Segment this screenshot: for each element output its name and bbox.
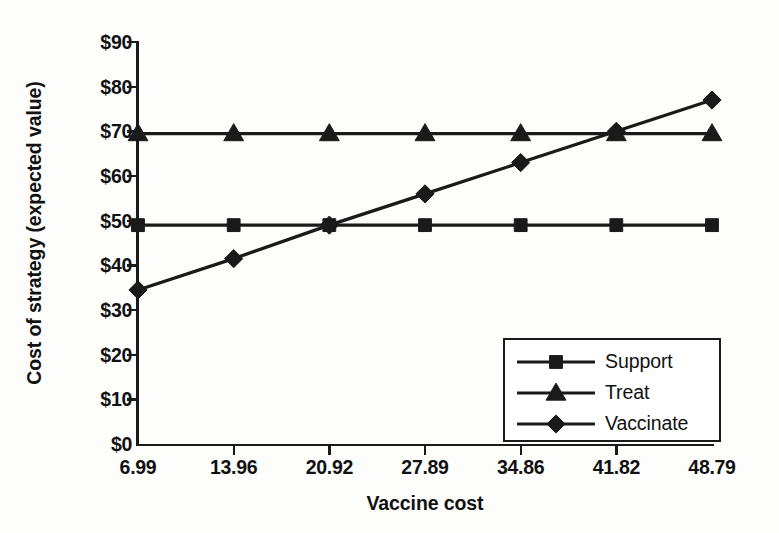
data-point-marker [703,91,721,109]
y-axis-tick-label: $70 [44,120,132,143]
square-marker-icon [515,351,597,373]
y-axis-tick-label: $80 [44,75,132,98]
data-point-marker [514,219,527,232]
x-axis-title: Vaccine cost [138,492,712,515]
y-axis-tick-label: $20 [44,343,132,366]
data-point-marker [129,281,147,299]
legend-item-support[interactable]: Support [505,346,719,377]
legend-item-label: Vaccinate [597,412,688,435]
series-vaccinate [129,91,721,299]
data-point-marker [416,185,434,203]
legend-item-label: Support [597,350,673,373]
x-axis-tick-label: 20.92 [306,456,353,479]
data-point-marker [610,219,623,232]
y-axis-tick-label: $30 [44,299,132,322]
data-point-marker [706,219,719,232]
y-axis-tick-label: $90 [44,31,132,54]
data-point-marker [225,250,243,268]
legend-item-label: Treat [597,381,649,404]
x-axis-tick-label: 27.89 [401,456,448,479]
legend-item-vaccinate[interactable]: Vaccinate [505,408,719,439]
y-axis-tick-labels: $0$10$20$30$40$50$60$70$80$90 [42,0,132,533]
diamond-marker-icon [515,413,597,435]
series-support [132,219,719,232]
chart-legend: Support Treat Vaccinate [503,338,721,442]
x-axis-tick-label: 34.86 [497,456,544,479]
data-point-marker [227,219,240,232]
y-axis-tick-label: $10 [44,388,132,411]
data-point-marker [132,219,145,232]
x-axis-tick-label: 48.79 [688,456,735,479]
triangle-marker-icon [515,382,597,404]
legend-item-treat[interactable]: Treat [505,377,719,408]
data-point-marker [512,154,530,172]
x-axis-tick-label: 13.96 [210,456,257,479]
x-axis-tick-label: 41.82 [593,456,640,479]
y-axis-tick-label: $60 [44,165,132,188]
y-axis-tick-label: $50 [44,209,132,232]
y-axis-tick-label: $40 [44,254,132,277]
x-axis-tick-label: 6.99 [120,456,157,479]
y-axis-tick-label: $0 [44,433,132,456]
chart-figure: Cost of strategy (expected value) $0$10$… [0,0,779,533]
data-point-marker [419,219,432,232]
